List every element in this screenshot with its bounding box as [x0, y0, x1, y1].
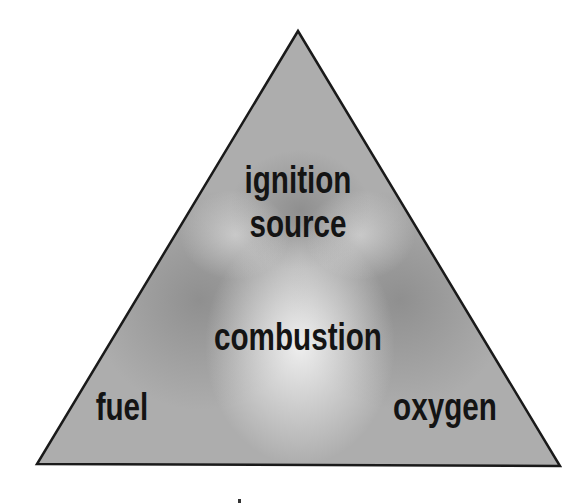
- label-combustion: combustion: [214, 315, 382, 357]
- label-source: source: [249, 202, 346, 244]
- label-oxygen: oxygen: [393, 385, 497, 427]
- fire-triangle-diagram: ignition source combustion fuel oxygen: [0, 0, 588, 503]
- label-ignition: ignition: [245, 158, 352, 200]
- cropped-caption-fragment: [238, 499, 241, 503]
- label-fuel: fuel: [96, 385, 149, 427]
